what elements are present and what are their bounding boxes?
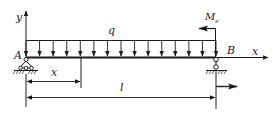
load-q-label: q: [108, 25, 115, 36]
beam-diagram: y x q A B Me x l: [0, 0, 273, 120]
x-axis-label: x: [252, 46, 258, 57]
support-a-label: A: [14, 50, 22, 61]
moment-main-symbol: M: [205, 11, 215, 22]
section-distance-label: x: [51, 67, 57, 78]
span-length-label: l: [120, 82, 124, 93]
y-axis-label: y: [16, 12, 22, 23]
load-arrows: [26, 41, 216, 57]
beam-diagram-svg: [0, 0, 273, 120]
distributed-load: [26, 41, 216, 57]
moment-me-label: Me: [205, 12, 219, 24]
moment-me-arrow: [199, 29, 216, 58]
moment-subscript: e: [215, 17, 219, 24]
support-b-label: B: [227, 45, 235, 56]
